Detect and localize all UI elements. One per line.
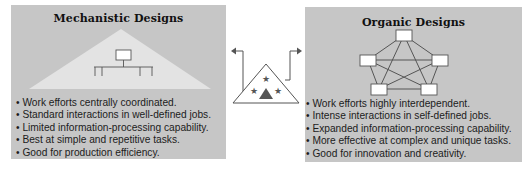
list-item: • Expanded information-processing capabi…: [306, 123, 512, 135]
list-item: • Work efforts highly interdependent.: [306, 98, 512, 110]
list-item: • Good for innovation and creativity.: [306, 148, 512, 160]
panel-title: Organic Designs: [305, 16, 522, 29]
organic-designs-panel: Organic Designs • Work efforts highly in…: [305, 7, 522, 162]
right-arrow-icon: [297, 48, 302, 55]
star-icon: ★: [250, 86, 258, 96]
bullet-list: • Work efforts highly interdependent. • …: [306, 98, 512, 160]
list-item: • Intense interactions in self-defined j…: [306, 110, 512, 122]
star-icon: ★: [262, 74, 270, 84]
list-item: • More effective at complex and unique t…: [306, 135, 512, 147]
left-arrow-icon: [231, 48, 236, 55]
star-icon: ★: [274, 86, 282, 96]
